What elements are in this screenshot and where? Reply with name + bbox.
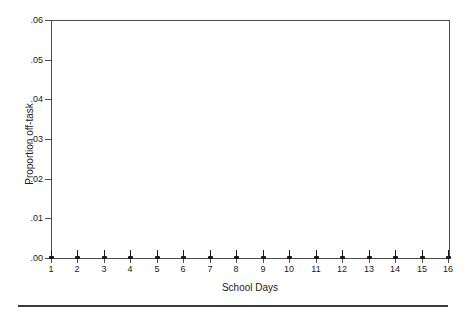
x-axis-tick-label: 2 <box>64 265 90 274</box>
data-point-marker <box>448 250 449 258</box>
y-axis-tick <box>45 139 51 140</box>
x-axis-tick-label: 1 <box>38 265 64 274</box>
x-axis-tick-label: 5 <box>144 265 170 274</box>
plot-area-frame <box>51 20 450 259</box>
x-axis-tick-label: 15 <box>409 265 435 274</box>
x-axis-tick-label: 9 <box>250 265 276 274</box>
y-axis-tick-label: .01 <box>18 214 43 223</box>
y-axis-tick-label: .02 <box>18 175 43 184</box>
data-point-marker <box>316 250 317 258</box>
data-point-marker <box>51 250 52 258</box>
value-axis-baseline <box>51 258 449 259</box>
x-axis-tick-label: 6 <box>170 265 196 274</box>
x-axis-tick-label: 3 <box>91 265 117 274</box>
y-axis-tick <box>45 179 51 180</box>
data-point-marker <box>236 250 237 258</box>
data-point-marker <box>183 250 184 258</box>
y-axis-tick-label: .03 <box>18 135 43 144</box>
y-axis-tick <box>45 20 51 21</box>
data-point-marker <box>342 250 343 258</box>
data-point-marker <box>130 250 131 258</box>
data-point-marker <box>210 250 211 258</box>
data-point-marker <box>422 250 423 258</box>
chart-figure: Proportion off-task .06.05.04.03.02.01.0… <box>0 0 466 318</box>
y-axis-tick <box>45 99 51 100</box>
x-axis-tick-label: 11 <box>303 265 329 274</box>
y-axis-tick <box>45 218 51 219</box>
data-point-marker <box>104 250 105 258</box>
y-axis-tick-label: .00 <box>18 254 43 263</box>
data-point-marker <box>289 250 290 258</box>
data-point-marker <box>369 250 370 258</box>
x-axis-tick-label: 12 <box>329 265 355 274</box>
data-point-marker <box>77 250 78 258</box>
data-point-marker <box>263 250 264 258</box>
data-point-marker <box>395 250 396 258</box>
x-axis-tick-label: 4 <box>117 265 143 274</box>
x-axis-tick-label: 8 <box>223 265 249 274</box>
x-axis-tick-label: 16 <box>435 265 461 274</box>
x-axis-tick-label: 7 <box>197 265 223 274</box>
x-axis-title: School Days <box>51 283 449 293</box>
x-axis-tick-label: 13 <box>356 265 382 274</box>
x-axis-tick-label: 10 <box>276 265 302 274</box>
data-point-marker <box>157 250 158 258</box>
y-axis-tick-label: .05 <box>18 56 43 65</box>
y-axis-tick-label: .06 <box>18 16 43 25</box>
footer-rule <box>18 305 448 307</box>
y-axis-tick <box>45 60 51 61</box>
y-axis-title: Proportion off-task <box>25 64 35 224</box>
y-axis-tick-label: .04 <box>18 95 43 104</box>
x-axis-tick-label: 14 <box>382 265 408 274</box>
